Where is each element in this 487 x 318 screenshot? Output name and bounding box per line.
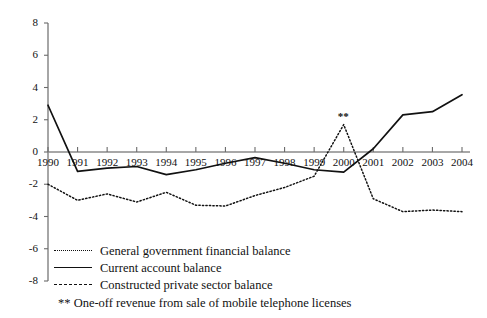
chart-legend: General government financial balance Cur… <box>52 243 452 294</box>
y-axis-tick-label: -6 <box>12 243 38 254</box>
y-axis-tick-label: 6 <box>12 49 38 60</box>
legend-label-general-government-financial-balance: General government financial balance <box>100 244 291 258</box>
y-axis-tick-label: -2 <box>12 178 38 189</box>
legend-label-current-account-balance: Current account balance <box>100 261 221 275</box>
y-axis-tick-label: 8 <box>12 17 38 28</box>
y-axis-tick-label: -8 <box>12 275 38 286</box>
chart-footnote: ** One-off revenue from sale of mobile t… <box>58 296 351 311</box>
legend-solid-line-sample-icon <box>52 262 94 274</box>
y-axis-tick-label: 0 <box>12 146 38 157</box>
x-axis-tick-label: 2004 <box>445 157 479 168</box>
legend-item-constructed-private-sector-balance: Constructed private sector balance <box>52 277 452 293</box>
y-axis-tick-label: 2 <box>12 114 38 125</box>
legend-label-constructed-private-sector-balance: Constructed private sector balance <box>100 278 273 292</box>
series-layer <box>48 95 462 212</box>
legend-item-general-government-financial-balance: General government financial balance <box>52 243 452 259</box>
y-axis-tick-label: -4 <box>12 211 38 222</box>
legend-dotted-line-sample-icon <box>52 245 94 257</box>
peak-annotation-asterisks: ** <box>338 111 349 121</box>
legend-item-current-account-balance: Current account balance <box>52 260 452 276</box>
chart-figure: 86420-2-4-6-8 19901991199219931994199519… <box>0 0 487 318</box>
y-axis-tick-label: 4 <box>12 82 38 93</box>
legend-dashed-line-sample-icon <box>52 279 94 291</box>
